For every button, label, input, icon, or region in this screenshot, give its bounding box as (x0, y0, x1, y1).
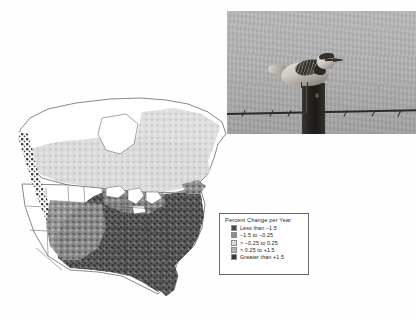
legend-item-label: > −0.25 to 0.25 (240, 240, 278, 246)
region-florida-peninsula (160, 264, 178, 296)
fence-post (302, 83, 325, 134)
bird-legs (301, 82, 311, 88)
legend-item[interactable]: > 0.25 to +1.5 (231, 247, 304, 253)
map-legend[interactable]: Percent Change per Year Less than −1.5 −… (219, 213, 309, 275)
bird-beak (333, 58, 343, 62)
legend-item[interactable]: Less than −1.5 (231, 225, 304, 231)
legend-swatch (231, 247, 237, 253)
perched-bird (281, 51, 343, 87)
figure-canvas: Percent Change per Year Less than −1.5 −… (0, 0, 416, 320)
legend-item-label: −1.5 to −0.25 (240, 232, 273, 238)
post-knot (315, 93, 319, 98)
legend-item[interactable]: −1.5 to −0.25 (231, 232, 304, 238)
legend-item[interactable]: Greater than +1.5 (231, 254, 304, 260)
legend-swatch (231, 254, 237, 260)
legend-item-label: Less than −1.5 (240, 225, 277, 231)
legend-title: Percent Change per Year (225, 217, 304, 223)
bird-photograph-inset[interactable] (227, 11, 416, 134)
map-landmass (18, 98, 226, 296)
legend-swatch (231, 225, 237, 231)
legend-swatch (231, 240, 237, 246)
north-america-map[interactable] (6, 88, 234, 313)
legend-swatch (231, 232, 237, 238)
post-crack (306, 87, 307, 113)
legend-item-label: Greater than +1.5 (240, 254, 284, 260)
region-eastern-canada-quebec (136, 108, 220, 188)
legend-item[interactable]: > −0.25 to 0.25 (231, 240, 304, 246)
map-svg (6, 88, 234, 313)
legend-item-label: > 0.25 to +1.5 (240, 247, 275, 253)
